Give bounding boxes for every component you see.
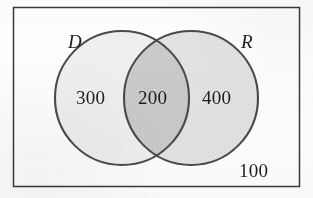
count-outside: 100 bbox=[239, 161, 268, 180]
count-intersection: 200 bbox=[138, 88, 167, 107]
set-label-d: D bbox=[68, 32, 82, 51]
count-r-only: 400 bbox=[202, 88, 231, 107]
set-label-r: R bbox=[241, 32, 253, 51]
count-d-only: 300 bbox=[76, 88, 105, 107]
venn-diagram-figure: D R 300 200 400 100 bbox=[0, 0, 313, 198]
